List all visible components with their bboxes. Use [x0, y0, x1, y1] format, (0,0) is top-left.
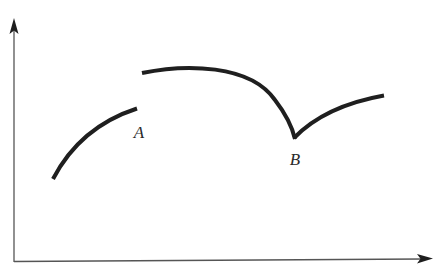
function-graph-figure: A B	[0, 0, 437, 280]
curve-right-branch	[294, 96, 384, 139]
graph-canvas	[0, 0, 437, 280]
label-point-a: A	[134, 124, 144, 141]
label-point-b: B	[290, 151, 300, 168]
x-axis	[14, 259, 422, 262]
curve-middle-branch	[142, 68, 295, 139]
curve-left-branch	[53, 109, 137, 180]
